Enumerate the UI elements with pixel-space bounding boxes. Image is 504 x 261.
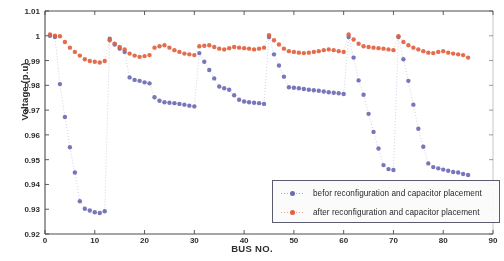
data-point <box>162 100 166 104</box>
data-point <box>267 33 271 37</box>
legend-item-after: after reconfiguration and capacitor plac… <box>281 204 480 220</box>
y-axis-title: Voltage (p.u) <box>19 22 30 162</box>
y-tick-label: 0.93 <box>6 205 40 214</box>
data-point <box>132 78 136 82</box>
y-tick-label: 0.95 <box>6 155 40 164</box>
y-tick-label: 0.98 <box>6 81 40 90</box>
data-point <box>327 90 331 94</box>
data-point <box>147 81 151 85</box>
data-point <box>162 43 166 47</box>
data-point <box>152 95 156 99</box>
x-tick-label: 80 <box>431 236 455 245</box>
data-point <box>297 50 301 54</box>
data-point <box>381 46 385 50</box>
data-point <box>356 42 360 46</box>
legend-marker-after-icon <box>281 207 305 217</box>
data-point <box>341 92 345 96</box>
data-point <box>386 47 390 51</box>
data-point <box>292 86 296 90</box>
voltage-profile-chart: Voltage (p.u) BUS NO. 0.920.930.940.950.… <box>0 0 504 261</box>
data-point <box>376 146 380 150</box>
data-point <box>257 101 261 105</box>
data-point <box>182 102 186 106</box>
data-point <box>217 84 221 88</box>
data-point <box>277 63 281 67</box>
data-point <box>58 34 62 38</box>
data-point <box>137 55 141 59</box>
data-point <box>122 47 126 51</box>
data-point <box>53 34 57 38</box>
data-point <box>272 38 276 42</box>
data-point <box>88 59 92 63</box>
data-point <box>192 53 196 57</box>
legend-marker-before-icon <box>281 188 305 198</box>
data-point <box>307 50 311 54</box>
data-point <box>98 211 102 215</box>
legend-label-after: after reconfiguration and capacitor plac… <box>313 208 480 217</box>
data-point <box>307 88 311 92</box>
data-point <box>127 51 131 55</box>
y-tick-label: 0.96 <box>6 130 40 139</box>
data-point <box>446 169 450 173</box>
data-point <box>117 45 121 49</box>
legend-item-before: befor reconfiguration and capacitor plac… <box>281 185 482 201</box>
data-point <box>93 60 97 64</box>
data-point <box>302 51 306 55</box>
data-point <box>242 46 246 50</box>
data-point <box>232 45 236 49</box>
data-point <box>461 53 465 57</box>
data-point <box>356 78 360 82</box>
data-point <box>172 48 176 52</box>
data-point <box>456 170 460 174</box>
data-point <box>312 50 316 54</box>
x-tick-label: 70 <box>381 236 405 245</box>
data-point <box>431 165 435 169</box>
data-point <box>282 46 286 50</box>
data-point <box>361 93 365 97</box>
data-point <box>282 74 286 78</box>
data-point <box>157 44 161 48</box>
data-point <box>371 45 375 49</box>
x-tick-label: 30 <box>182 236 206 245</box>
data-point <box>152 45 156 49</box>
data-point <box>88 208 92 212</box>
data-point <box>237 45 241 49</box>
data-point <box>287 49 291 53</box>
data-point <box>58 82 62 86</box>
data-point <box>426 161 430 165</box>
data-point <box>232 93 236 97</box>
data-point <box>416 47 420 51</box>
data-point <box>112 42 116 46</box>
data-point <box>132 53 136 57</box>
data-point <box>441 167 445 171</box>
data-point <box>456 52 460 56</box>
data-point <box>302 87 306 91</box>
data-point <box>421 49 425 53</box>
data-point <box>351 55 355 59</box>
data-point <box>157 99 161 103</box>
data-point <box>371 130 375 134</box>
y-tick-label: 0.94 <box>6 180 40 189</box>
x-tick-label: 50 <box>282 236 306 245</box>
data-point <box>182 51 186 55</box>
data-point <box>252 47 256 51</box>
data-point <box>391 48 395 52</box>
data-point <box>406 43 410 47</box>
data-point <box>332 48 336 52</box>
data-point <box>227 46 231 50</box>
data-point <box>401 40 405 44</box>
data-point <box>142 54 146 58</box>
data-point <box>436 166 440 170</box>
y-tick-label: 0.97 <box>6 106 40 115</box>
data-point <box>466 173 470 177</box>
legend-label-before: befor reconfiguration and capacitor plac… <box>313 189 482 198</box>
data-point <box>336 91 340 95</box>
data-point <box>351 37 355 41</box>
data-point <box>187 52 191 56</box>
data-point <box>421 145 425 149</box>
data-point <box>446 50 450 54</box>
data-point <box>73 170 77 174</box>
data-point <box>108 38 112 42</box>
data-point <box>317 49 321 53</box>
data-point <box>83 207 87 211</box>
